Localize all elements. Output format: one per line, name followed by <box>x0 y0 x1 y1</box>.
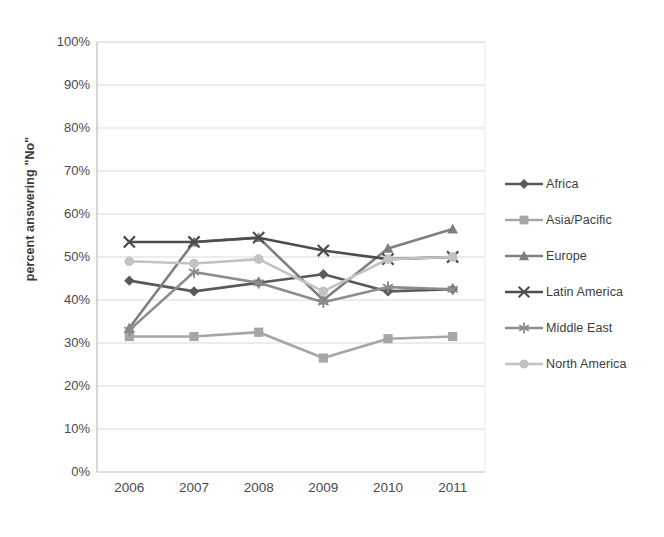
data-point-square <box>520 216 529 225</box>
data-point-circle <box>448 252 458 262</box>
series-layer <box>124 224 459 363</box>
data-point-diamond <box>124 275 134 285</box>
legend-item-europe[interactable]: Europe <box>505 238 660 274</box>
legend-item-asia-pacific[interactable]: Asia/Pacific <box>505 202 660 238</box>
legend-item-africa[interactable]: Africa <box>505 166 660 202</box>
data-point-circle <box>519 359 528 368</box>
data-point-diamond <box>318 269 328 279</box>
data-point-square <box>319 353 328 362</box>
legend-item-label: Middle East <box>543 321 612 335</box>
data-point-diamond <box>519 179 529 189</box>
x-axis-tick-label: 2009 <box>293 481 353 495</box>
data-point-square <box>189 332 198 341</box>
x-axis-tick-labels: 200620072008200920102011 <box>97 481 485 505</box>
data-point-square <box>254 328 263 337</box>
data-point-circle <box>254 254 264 264</box>
legend-marker-cross-icon <box>505 284 543 300</box>
legend-marker-circle-icon <box>505 356 543 372</box>
legend-marker-triangle-icon <box>505 248 543 264</box>
legend-item-label: Asia/Pacific <box>543 213 612 227</box>
data-point-circle <box>383 254 393 264</box>
data-point-triangle <box>447 224 458 234</box>
series-asia-pacific <box>125 328 458 363</box>
data-point-circle <box>189 259 199 269</box>
legend-item-label: North America <box>543 357 627 371</box>
legend-item-middle-east[interactable]: Middle East <box>505 310 660 346</box>
legend-item-label: Latin America <box>543 285 623 299</box>
data-point-square <box>448 332 457 341</box>
legend-item-label: Europe <box>543 249 587 263</box>
chart-legend: AfricaAsia/PacificEuropeLatin AmericaMid… <box>505 166 660 382</box>
x-axis-tick-label: 2006 <box>99 481 159 495</box>
line-chart: percent answering "No" 100%90%80%70%60%5… <box>0 0 664 537</box>
legend-item-north-america[interactable]: North America <box>505 346 660 382</box>
x-axis-tick-label: 2010 <box>358 481 418 495</box>
data-point-circle <box>125 257 135 267</box>
data-point-circle <box>319 287 329 297</box>
x-axis-tick-label: 2007 <box>164 481 224 495</box>
legend-item-label: Africa <box>543 177 579 191</box>
series-latin-america <box>124 232 459 265</box>
x-axis-tick-label: 2011 <box>423 481 483 495</box>
legend-marker-square-icon <box>505 212 543 228</box>
legend-item-latin-america[interactable]: Latin America <box>505 274 660 310</box>
data-point-square <box>383 334 392 343</box>
legend-marker-star-icon <box>505 320 543 336</box>
x-axis-tick-label: 2008 <box>229 481 289 495</box>
data-point-diamond <box>189 286 199 296</box>
legend-marker-diamond-icon <box>505 176 543 192</box>
